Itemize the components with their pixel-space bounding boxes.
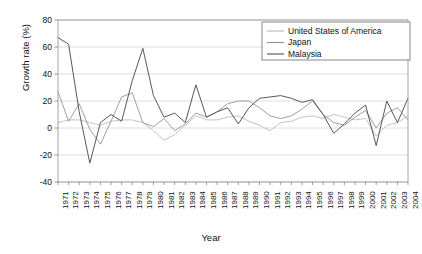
y-tick-label: 80 [24, 16, 52, 25]
x-tick-label: 1980 [157, 191, 165, 209]
legend-item-label: Malaysia [288, 50, 322, 59]
x-tick-label: 1981 [168, 191, 176, 209]
x-tick-label: 1973 [83, 191, 91, 209]
x-tick-label: 1979 [146, 191, 154, 209]
x-tick-label: 2001 [380, 191, 388, 209]
y-tick-label: 0 [24, 124, 52, 133]
plot-area [0, 0, 422, 254]
x-axis-title: Year [0, 232, 422, 243]
y-tick-label: -40 [24, 178, 52, 187]
x-tick-label: 1974 [93, 191, 101, 209]
x-tick-label: 1992 [284, 191, 292, 209]
x-tick-label: 1993 [295, 191, 303, 209]
x-tick-label: 1976 [115, 191, 123, 209]
x-tick-label: 1983 [189, 191, 197, 209]
y-tick-label: 20 [24, 97, 52, 106]
x-tick-label: 2000 [369, 191, 377, 209]
growth-rate-line-chart: Growth rate (%) Year -40-20020406080 197… [0, 0, 422, 254]
x-tick-label: 1971 [62, 191, 70, 209]
x-tick-label: 1999 [358, 191, 366, 209]
x-tick-label: 1978 [136, 191, 144, 209]
x-tick-label: 1998 [348, 191, 356, 209]
x-tick-label: 2003 [401, 191, 409, 209]
x-tick-label: 1985 [210, 191, 218, 209]
legend-item-label: Japan [288, 38, 311, 47]
y-tick-label: -20 [24, 151, 52, 160]
legend-item-label: United States of America [288, 27, 382, 36]
x-tick-label: 1972 [72, 191, 80, 209]
x-tick-label: 1989 [252, 191, 260, 209]
x-tick-label: 1984 [199, 191, 207, 209]
x-tick-label: 1995 [316, 191, 324, 209]
x-tick-label: 2002 [390, 191, 398, 209]
x-tick-label: 1990 [263, 191, 271, 209]
x-tick-label: 1977 [125, 191, 133, 209]
x-tick-label: 1975 [104, 191, 112, 209]
x-tick-label: 1994 [305, 191, 313, 209]
x-tick-label: 1991 [274, 191, 282, 209]
x-tick-label: 1988 [242, 191, 250, 209]
y-tick-label: 60 [24, 43, 52, 52]
x-tick-label: 1997 [337, 191, 345, 209]
x-tick-label: 1996 [327, 191, 335, 209]
x-tick-label: 1987 [231, 191, 239, 209]
x-tick-label: 2004 [412, 191, 420, 209]
x-tick-label: 1982 [178, 191, 186, 209]
y-tick-label: 40 [24, 70, 52, 79]
x-tick-label: 1986 [221, 191, 229, 209]
